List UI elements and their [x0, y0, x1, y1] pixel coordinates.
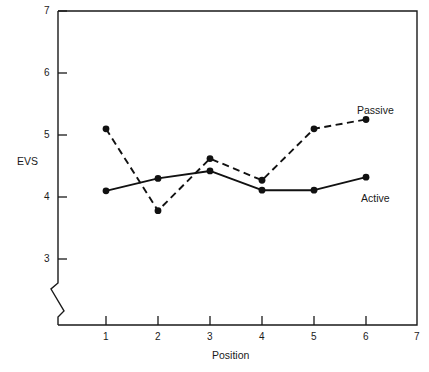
data-point-active-2 [155, 175, 162, 182]
x-tick-label-4: 4 [259, 332, 265, 342]
y-tick-label-7: 7 [44, 6, 50, 16]
x-tick-label-5: 5 [311, 332, 317, 342]
y-axis-title: EVS [17, 156, 38, 167]
x-axis-ticks [106, 316, 366, 325]
x-tick-label-7: 7 [414, 332, 420, 342]
y-axis-ticks [58, 11, 67, 259]
x-tick-label-6: 6 [363, 332, 369, 342]
data-point-active-5 [311, 187, 318, 194]
y-tick-label-5: 5 [44, 130, 50, 140]
y-tick-label-4: 4 [44, 192, 50, 202]
data-point-active-6 [363, 174, 370, 181]
x-tick-label-3: 3 [207, 332, 213, 342]
series-line-active [106, 171, 366, 191]
data-point-active-4 [259, 187, 266, 194]
data-point-passive-6 [363, 116, 370, 123]
y-tick-label-6: 6 [44, 68, 50, 78]
data-point-passive-4 [259, 177, 266, 184]
series-line-passive [106, 120, 366, 211]
chart-svg [0, 0, 429, 372]
data-point-passive-2 [155, 207, 162, 214]
data-point-passive-3 [207, 155, 214, 162]
plot-frame-border [58, 11, 417, 325]
data-point-passive-1 [103, 125, 110, 132]
data-point-active-1 [103, 187, 110, 194]
data-point-active-3 [207, 168, 214, 175]
x-tick-label-2: 2 [155, 332, 161, 342]
series-layer [103, 116, 370, 214]
series-label-active: Active [361, 193, 390, 204]
x-axis-title: Position [212, 350, 249, 361]
series-label-passive: Passive [357, 105, 394, 116]
chart-container: 7 6 5 4 3 1 2 3 4 5 6 7 EVS Position Pas… [0, 0, 429, 372]
data-point-passive-5 [311, 125, 318, 132]
x-tick-label-1: 1 [103, 332, 109, 342]
y-axis-line-with-break [51, 11, 64, 325]
y-tick-label-3: 3 [44, 254, 50, 264]
